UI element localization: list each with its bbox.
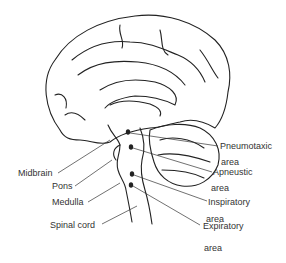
label-apneustic: Apneustic bbox=[213, 167, 253, 177]
label-inspiratory: Inspiratory bbox=[208, 197, 250, 207]
leader-expiratory bbox=[133, 186, 200, 225]
leader-midbrain bbox=[58, 140, 110, 173]
pneumotaxic-nucleus bbox=[126, 129, 130, 135]
label-pneumotaxic: Pneumotaxic bbox=[220, 141, 272, 151]
label-spinal-cord: Spinal cord bbox=[50, 220, 95, 230]
label-apneustic-area: area bbox=[211, 183, 229, 193]
brainstem-outline bbox=[108, 125, 132, 222]
label-expiratory-area: area bbox=[204, 243, 222, 253]
label-medulla: Medulla bbox=[52, 197, 84, 207]
label-pneumotaxic-area: area bbox=[221, 157, 239, 167]
label-midbrain: Midbrain bbox=[18, 168, 53, 178]
inspiratory-nucleus bbox=[130, 171, 134, 177]
leader-pons bbox=[75, 160, 112, 186]
leader-medulla bbox=[88, 183, 120, 202]
label-pons: Pons bbox=[52, 181, 73, 191]
expiratory-nucleus bbox=[129, 182, 133, 188]
leader-apneustic bbox=[133, 148, 212, 172]
cerebrum-outline bbox=[46, 15, 230, 143]
apneustic-nucleus bbox=[129, 144, 133, 150]
label-expiratory: Expiratory bbox=[203, 221, 244, 231]
